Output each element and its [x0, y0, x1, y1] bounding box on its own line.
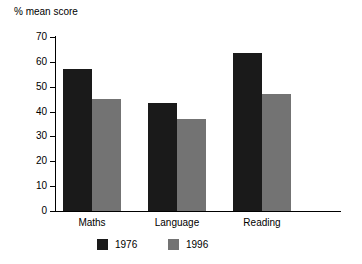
x-category-label: Maths — [47, 216, 137, 229]
bar — [177, 119, 206, 211]
bar — [233, 53, 262, 211]
x-axis-line — [55, 211, 341, 212]
legend-label: 1996 — [186, 238, 208, 251]
legend-label: 1976 — [115, 238, 137, 251]
legend-swatch-icon — [168, 239, 179, 250]
bar-chart: % mean score 010203040506070 MathsLangua… — [0, 0, 362, 264]
bar — [262, 94, 291, 211]
legend: 19761996 — [0, 238, 362, 256]
bar — [148, 103, 177, 211]
bar — [63, 69, 92, 211]
bars-layer — [0, 0, 362, 211]
y-tick-mark — [50, 211, 56, 212]
x-category-label: Language — [132, 216, 222, 229]
bar — [92, 99, 121, 211]
x-category-label: Reading — [217, 216, 307, 229]
legend-item: 1996 — [168, 238, 208, 251]
legend-item: 1976 — [97, 238, 137, 251]
legend-swatch-icon — [97, 239, 108, 250]
